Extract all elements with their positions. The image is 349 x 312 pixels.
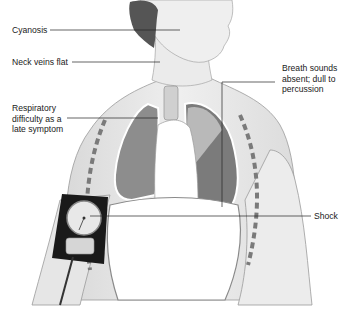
torso-illustration <box>0 0 349 312</box>
label-neck-veins: Neck veins flat <box>12 57 68 68</box>
trachea <box>164 86 178 120</box>
label-shock: Shock <box>314 211 338 222</box>
label-cyanosis: Cyanosis <box>12 25 47 36</box>
hair <box>129 0 158 48</box>
label-breath-sounds: Breath sounds absent; dull to percussion <box>282 63 337 95</box>
abdomen <box>107 198 240 301</box>
label-respiratory-difficulty: Respiratory difficulty as a late symptom <box>12 103 63 135</box>
anatomy-diagram: Cyanosis Neck veins flat Respiratory dif… <box>0 0 349 312</box>
